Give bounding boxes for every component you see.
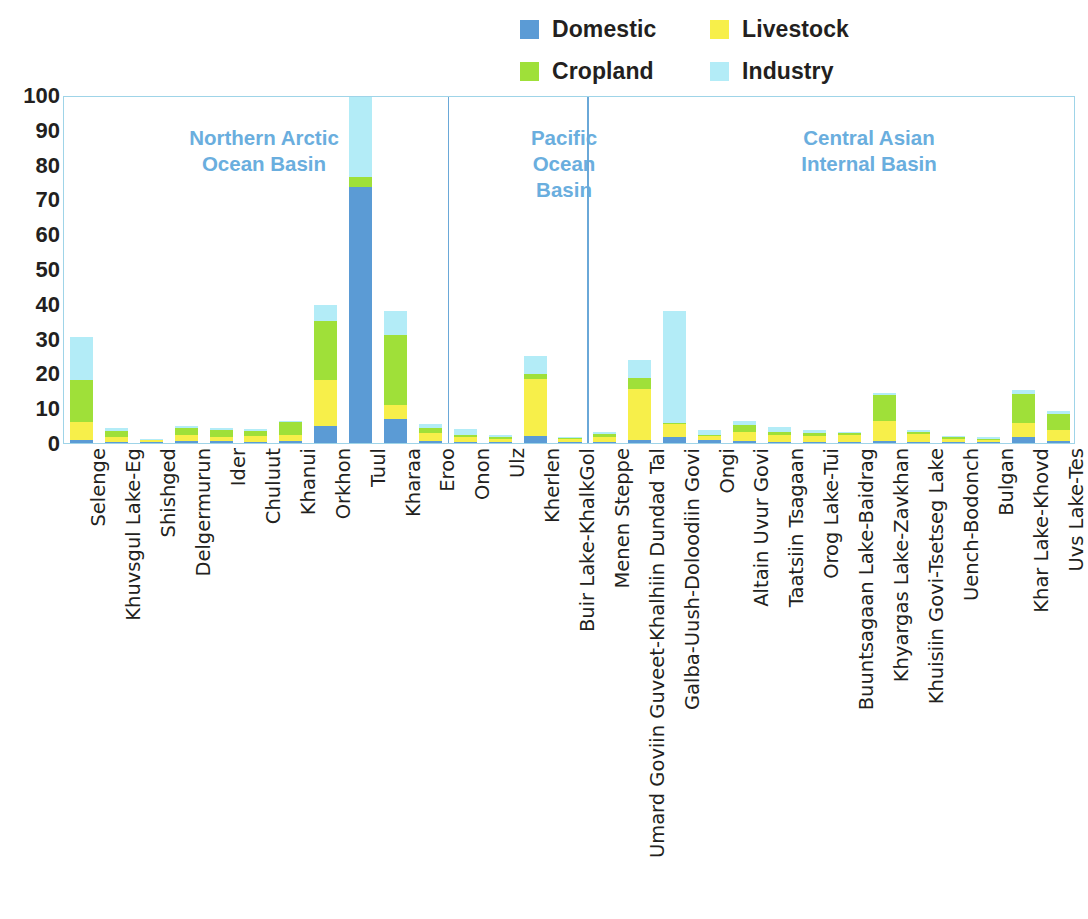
bar-segment-livestock (628, 389, 651, 440)
x-label-galba-uush-doloodiin-govi: Galba-Uush-Doloodiin Govi (681, 448, 704, 710)
bar-segment-cropland (175, 428, 198, 435)
y-tick-30: 30 (2, 327, 60, 353)
bar-segment-domestic (663, 437, 686, 443)
bar-bulgan[interactable] (977, 437, 1000, 443)
bar-segment-livestock (524, 379, 547, 436)
legend-item-industry[interactable]: Industry (710, 50, 900, 92)
y-tick-10: 10 (2, 396, 60, 422)
y-axis: 1009080706050403020100 (0, 88, 60, 452)
group-title-0: Northern ArcticOcean Basin (134, 125, 394, 177)
bar-chuluut[interactable] (244, 429, 267, 443)
bar-khuvsgul-lake-eg[interactable] (105, 428, 128, 443)
bar-segment-cropland (873, 395, 896, 421)
bar-altain-uvur-govi[interactable] (733, 421, 756, 443)
bar-segment-domestic (768, 442, 791, 443)
bar-ongi[interactable] (698, 430, 721, 443)
legend-label: Industry (742, 58, 834, 85)
bar-segment-cropland (70, 380, 93, 422)
x-label-ulz: Ulz (506, 448, 529, 478)
bar-segment-domestic (593, 442, 616, 443)
legend-swatch-domestic (520, 20, 539, 39)
bar-segment-industry (314, 305, 337, 322)
bar-segment-domestic (838, 442, 861, 443)
legend-swatch-livestock (710, 20, 729, 39)
bar-umard-goviin-guveet-khalhiin-dundad-tal[interactable] (628, 360, 651, 443)
bar-galba-uush-doloodiin-govi[interactable] (663, 311, 686, 443)
y-tick-80: 80 (2, 153, 60, 179)
bar-segment-domestic (1012, 437, 1035, 443)
bar-segment-domestic (628, 440, 651, 443)
bar-ider[interactable] (210, 428, 233, 443)
bar-buir-lake-khalkgol[interactable] (558, 437, 581, 443)
plot-area: Northern ArcticOcean BasinPacificOceanBa… (63, 96, 1075, 444)
bar-segment-livestock (768, 435, 791, 442)
x-label-buir-lake-khalkgol: Buir Lake-KhalkGol (576, 448, 599, 632)
bar-uench-bodonch[interactable] (942, 436, 965, 443)
x-label-buuntsagaan-lake-baidrag: Buuntsagaan Lake-Baidrag (855, 448, 878, 710)
x-label-shishged: Shishged (157, 448, 180, 537)
bar-segment-domestic (244, 442, 267, 443)
x-axis-labels: SelengeKhuvsgul Lake-EgShishgedDelgermur… (63, 448, 1075, 908)
bar-segment-cropland (733, 425, 756, 432)
bar-segment-domestic (558, 442, 581, 443)
bar-onon[interactable] (454, 429, 477, 443)
legend-item-domestic[interactable]: Domestic (520, 8, 710, 50)
x-label-ongi: Ongi (716, 448, 739, 494)
bar-segment-cropland (279, 422, 302, 435)
bar-segment-domestic (907, 442, 930, 443)
x-label-kherlen: Kherlen (541, 448, 564, 523)
bar-segment-cropland (1047, 414, 1070, 430)
bar-delgermurun[interactable] (175, 426, 198, 443)
bar-segment-domestic (977, 442, 1000, 443)
bar-segment-domestic (314, 426, 337, 443)
bar-uvs-lake-tes[interactable] (1047, 411, 1070, 443)
x-label-bulgan: Bulgan (995, 448, 1018, 516)
y-tick-0: 0 (2, 431, 60, 457)
legend-item-cropland[interactable]: Cropland (520, 50, 710, 92)
bar-segment-livestock (70, 422, 93, 439)
bar-ulz[interactable] (489, 435, 512, 443)
x-label-khyargas-lake-zavkhan: Khyargas Lake-Zavkhan (890, 448, 913, 682)
y-tick-50: 50 (2, 257, 60, 283)
bar-kherlen[interactable] (524, 356, 547, 443)
bar-kharaa[interactable] (384, 311, 407, 443)
bar-khuisiin-govi-tsetseg-lake[interactable] (907, 430, 930, 443)
y-tick-100: 100 (2, 83, 60, 109)
bar-khyargas-lake-zavkhan[interactable] (873, 393, 896, 443)
bar-buuntsagaan-lake-baidrag[interactable] (838, 432, 861, 443)
bar-taatsiin-tsagaan[interactable] (768, 427, 791, 443)
legend-label: Cropland (552, 58, 654, 85)
bar-segment-cropland (314, 321, 337, 380)
group-title-2: Central AsianInternal Basin (724, 125, 1014, 177)
bar-shishged[interactable] (140, 439, 163, 443)
bar-segment-cropland (349, 177, 372, 187)
bar-segment-domestic (489, 442, 512, 443)
bar-orkhon[interactable] (314, 305, 337, 443)
bar-selenge[interactable] (70, 337, 93, 443)
y-tick-20: 20 (2, 361, 60, 387)
bar-segment-domestic (175, 441, 198, 443)
bar-segment-livestock (873, 421, 896, 440)
x-label-selenge: Selenge (87, 448, 110, 527)
bar-segment-cropland (210, 430, 233, 437)
bar-segment-domestic (105, 442, 128, 443)
bar-orog-lake-tui[interactable] (803, 430, 826, 443)
bar-khanui[interactable] (279, 421, 302, 443)
x-label-onon: Onon (471, 448, 494, 500)
chart-legend: DomesticLivestockCroplandIndustry (520, 8, 1060, 92)
bar-khar-lake-khovd[interactable] (1012, 390, 1035, 443)
legend-label: Domestic (552, 16, 656, 43)
bar-menen-steppe[interactable] (593, 432, 616, 443)
bar-segment-domestic (1047, 441, 1070, 443)
bar-eroo[interactable] (419, 424, 442, 443)
bar-segment-domestic (140, 442, 163, 443)
x-label-taatsiin-tsagaan: Taatsiin Tsagaan (785, 448, 808, 607)
x-label-tuul: Tuul (367, 448, 390, 487)
bar-segment-livestock (279, 435, 302, 442)
bar-segment-domestic (698, 440, 721, 443)
legend-item-livestock[interactable]: Livestock (710, 8, 900, 50)
x-label-chuluut: Chuluut (262, 448, 285, 524)
legend-swatch-industry (710, 62, 729, 81)
bar-segment-industry (628, 360, 651, 378)
